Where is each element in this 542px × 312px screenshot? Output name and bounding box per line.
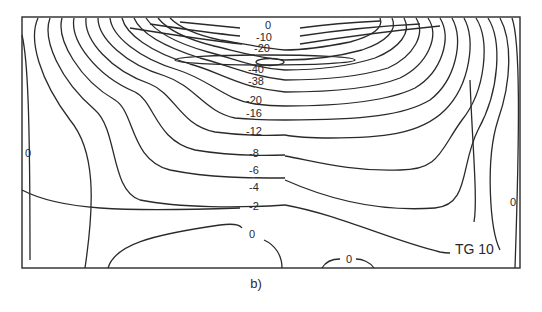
- label-0-left-wall: 0: [25, 147, 31, 159]
- upper-contours: [22, 18, 518, 268]
- label-m2: -2: [249, 200, 259, 212]
- case-tag: TG 10: [455, 241, 494, 257]
- label-0-right-wall: 0: [510, 196, 516, 208]
- label-m20-top: -20: [254, 42, 270, 54]
- contour-labels: 0 -10 -20 -40 -38 -20 -16 -12 -8 -6 -4 -…: [25, 19, 516, 265]
- label-m8: -8: [249, 147, 259, 159]
- label-m4: -4: [249, 181, 259, 193]
- label-0-top: 0: [265, 19, 271, 31]
- label-0-bottom-right: 0: [346, 253, 352, 265]
- label-m12: -12: [246, 125, 262, 137]
- label-m20: -20: [246, 94, 262, 106]
- label-m38: -38: [248, 75, 264, 87]
- label-m40: -40: [248, 63, 264, 75]
- contour-plot: 0 -10 -20 -40 -38 -20 -16 -12 -8 -6 -4 -…: [0, 0, 542, 312]
- panel-label: b): [250, 276, 262, 291]
- label-m6: -6: [249, 164, 259, 176]
- label-m16: -16: [246, 107, 262, 119]
- label-0-bottom-left: 0: [249, 228, 255, 240]
